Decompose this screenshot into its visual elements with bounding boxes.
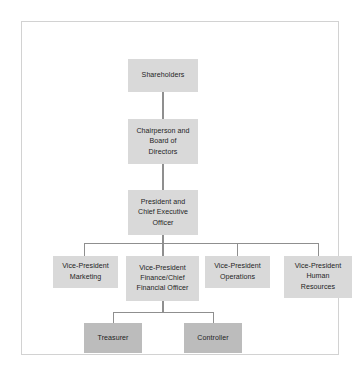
node-president[interactable]: President and Chief Executive Officer xyxy=(128,190,198,235)
connector-bus-to-vp-human-resources xyxy=(318,243,319,256)
node-vp-operations[interactable]: Vice-President Operations xyxy=(205,256,270,288)
connector-board-to-president xyxy=(162,164,163,191)
node-treasurer[interactable]: Treasurer xyxy=(84,323,142,353)
node-vp-finance[interactable]: Vice-President Finance/Chief Financial O… xyxy=(126,256,199,301)
connector-vp-bus xyxy=(84,243,319,244)
connector-bus-to-vp-finance xyxy=(162,243,163,256)
node-board[interactable]: Chairperson and Board of Directors xyxy=(128,119,198,164)
connector-sub-bus-to-treasurer xyxy=(113,312,114,324)
connector-bus-to-vp-marketing xyxy=(84,243,85,256)
chart-frame: Shareholders Chairperson and Board of Di… xyxy=(21,21,339,355)
node-vp-human-resources[interactable]: Vice-President Human Resources xyxy=(284,256,352,298)
connector-vp-finance-to-sub-bus xyxy=(162,301,163,312)
node-vp-marketing[interactable]: Vice-President Marketing xyxy=(53,256,118,288)
node-shareholders[interactable]: Shareholders xyxy=(128,59,198,92)
org-chart-page: Shareholders Chairperson and Board of Di… xyxy=(0,0,360,377)
node-controller[interactable]: Controller xyxy=(184,323,242,353)
connector-sub-bus-to-controller xyxy=(213,312,214,324)
connector-sub-bus xyxy=(113,312,214,313)
connector-bus-to-vp-operations xyxy=(237,243,238,256)
connector-shareholders-to-board xyxy=(162,92,163,119)
